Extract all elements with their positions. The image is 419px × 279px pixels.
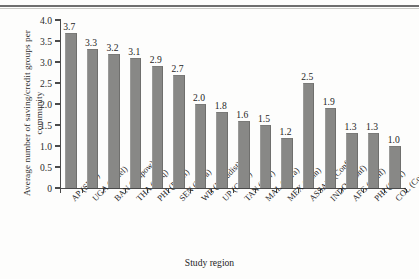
y-axis-title: Average number of saving/credit groups p… — [21, 21, 45, 206]
bar-value-label: 2.9 — [145, 54, 167, 65]
y-axis-title-container: Average number of saving/credit groups p… — [15, 18, 51, 208]
bar-value-label: 3.7 — [58, 21, 80, 32]
y-axis-tick-label: 0.5 — [0, 161, 52, 172]
y-axis-tick-label: 2.0 — [0, 98, 52, 109]
bar — [368, 133, 380, 188]
y-axis-tick-label: 0 — [0, 182, 52, 193]
bar-value-label: 3.2 — [102, 42, 124, 53]
bar-value-label: 2.0 — [188, 92, 210, 103]
bar — [152, 66, 164, 188]
x-axis-title: Study region — [0, 257, 419, 268]
y-axis-tick-label: 1.5 — [0, 119, 52, 130]
bar-value-label: 2.5 — [296, 71, 318, 82]
bar — [65, 33, 77, 188]
bar — [346, 133, 358, 188]
y-axis-tick-label: 4.0 — [0, 14, 52, 25]
bar-value-label: 1.0 — [383, 134, 405, 145]
figure: Average number of saving/credit groups p… — [0, 0, 419, 279]
bar-value-label: 2.7 — [166, 63, 188, 74]
bar — [260, 125, 272, 188]
bar-value-label: 1.3 — [361, 121, 383, 132]
bar — [281, 138, 293, 188]
bar — [389, 146, 401, 188]
bar-value-label: 1.9 — [318, 96, 340, 107]
bar-value-label: 1.6 — [231, 109, 253, 120]
header-rule-thin — [0, 8, 419, 9]
bar — [303, 83, 315, 188]
bar — [216, 112, 228, 188]
bar — [130, 58, 142, 188]
bar-value-label: 1.3 — [339, 121, 361, 132]
bar-value-label: 1.8 — [210, 100, 232, 111]
header-rule — [0, 5, 419, 7]
y-axis-tick-label: 2.5 — [0, 77, 52, 88]
bar-value-label: 1.5 — [253, 113, 275, 124]
bar — [173, 75, 185, 188]
bar — [195, 104, 207, 188]
y-axis-tick-label: 3.0 — [0, 56, 52, 67]
bar-value-label: 1.2 — [275, 126, 297, 137]
bar — [238, 121, 250, 188]
bar-value-label: 3.1 — [123, 46, 145, 57]
bar — [325, 108, 337, 188]
bar-value-label: 3.3 — [80, 37, 102, 48]
x-axis-tick-mark — [60, 189, 61, 193]
bar — [108, 54, 120, 188]
y-axis-tick-label: 1.0 — [0, 140, 52, 151]
bar — [87, 49, 99, 188]
y-axis-tick-label: 3.5 — [0, 35, 52, 46]
